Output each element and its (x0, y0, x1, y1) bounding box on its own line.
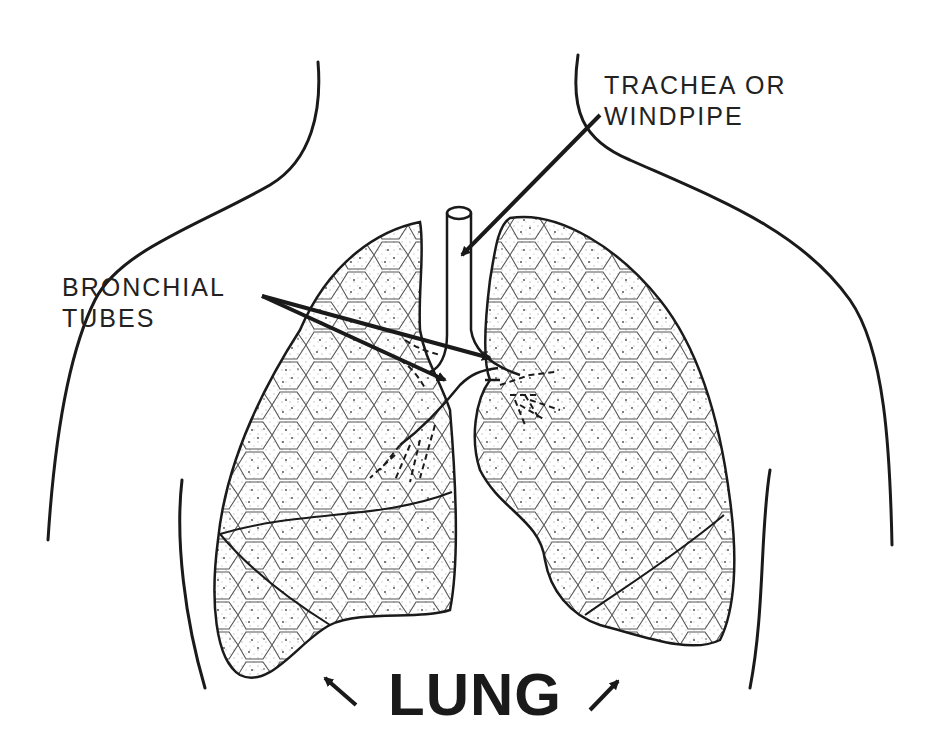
trachea-label-line2: WINDPIPE (604, 101, 787, 132)
left-arm-line (180, 480, 205, 688)
bronchial-tubes-label: BRONCHIAL TUBES (62, 272, 226, 334)
right-arm-line (750, 470, 770, 688)
trachea-label: TRACHEA OR WINDPIPE (604, 70, 787, 132)
right-lung (475, 217, 735, 645)
lung-arrow-left (325, 678, 356, 705)
left-lung (214, 222, 455, 678)
trachea (447, 207, 471, 335)
lung-arrow-right (590, 681, 618, 710)
body-outline (48, 55, 892, 688)
trachea-label-line1: TRACHEA OR (604, 70, 787, 101)
lung-label: LUNG (388, 660, 562, 729)
lung-diagram (0, 0, 943, 750)
bronchial-label-line1: BRONCHIAL (62, 272, 226, 303)
bronchial-label-line2: TUBES (62, 303, 226, 334)
